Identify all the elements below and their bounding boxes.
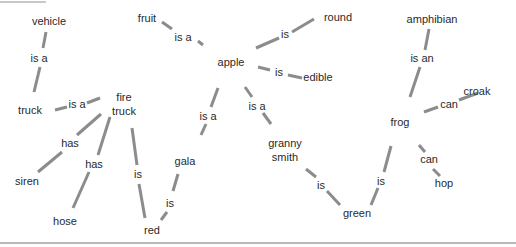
- edge-line: [327, 191, 340, 205]
- node-truck: truck: [18, 104, 42, 116]
- node-label-line: hop: [435, 177, 453, 189]
- edge-label: is a: [68, 98, 86, 110]
- edge-line: [98, 117, 110, 155]
- nodes-layer: vehicletruckfiretrucksirenhoseredfruitap…: [15, 11, 491, 236]
- edge-label: is: [317, 179, 325, 191]
- edge-label: can: [420, 153, 438, 165]
- edge-line: [55, 107, 67, 110]
- edge-line: [38, 152, 62, 172]
- edge-label: is a: [248, 100, 266, 112]
- node-frog: frog: [391, 116, 410, 128]
- edge-line: [256, 38, 279, 48]
- edge-label: is a: [30, 52, 48, 64]
- node-hose: hose: [53, 215, 77, 227]
- node-label-line: granny: [268, 137, 302, 149]
- edge-line: [87, 98, 100, 103]
- node-label-line: fire: [116, 91, 131, 103]
- node-fruit: fruit: [138, 12, 156, 24]
- node-label-line: apple: [218, 56, 245, 68]
- edge-line: [198, 41, 203, 45]
- edge-line: [288, 75, 302, 78]
- node-red: red: [144, 224, 160, 236]
- edge-label: is: [166, 197, 174, 209]
- edge-label: is: [275, 66, 283, 78]
- edge-line: [371, 188, 378, 205]
- node-label-line: smith: [272, 151, 298, 163]
- edge-label: has: [61, 137, 79, 149]
- semantic-network-diagram: is ais ahashasisisis aisisis ais aisisis…: [0, 0, 516, 247]
- node-label-line: edible: [303, 71, 332, 83]
- node-label-line: gala: [175, 155, 197, 167]
- bottom-rule: [0, 242, 516, 244]
- edge-line: [201, 124, 206, 135]
- node-label-line: red: [144, 224, 160, 236]
- node-label-line: round: [324, 11, 352, 23]
- edge-line: [139, 184, 145, 218]
- edge-line: [424, 107, 438, 112]
- node-round: round: [324, 11, 352, 23]
- node-label-line: frog: [391, 116, 410, 128]
- edge-line: [161, 212, 167, 220]
- edge-line: [245, 87, 252, 97]
- edge-label: is: [281, 28, 289, 40]
- node-apple: apple: [218, 56, 245, 68]
- edges-layer: [34, 19, 478, 220]
- edge-line: [162, 22, 172, 29]
- edge-line: [384, 146, 391, 172]
- edge-line: [43, 32, 46, 48]
- edge-line: [77, 114, 101, 135]
- edge-label: is: [377, 175, 385, 187]
- node-green: green: [343, 207, 371, 219]
- edge-label: is: [134, 168, 142, 180]
- edge-label: has: [85, 158, 103, 170]
- edge-line: [292, 19, 314, 32]
- node-label-line: truck: [18, 104, 42, 116]
- edge-line: [433, 169, 440, 176]
- node-label-line: amphibian: [407, 13, 458, 25]
- node-amphibian: amphibian: [407, 13, 458, 25]
- node-label-line: truck: [112, 105, 136, 117]
- edge-label: is a: [174, 31, 192, 43]
- edge-line: [263, 113, 271, 124]
- edge-label: can: [440, 98, 458, 110]
- edge-line: [73, 172, 89, 208]
- edge-line: [34, 67, 40, 92]
- edge-label: is an: [410, 52, 433, 64]
- node-siren: siren: [15, 175, 39, 187]
- node-granny-smith: grannysmith: [268, 137, 302, 163]
- node-vehicle: vehicle: [32, 15, 66, 27]
- edge-line: [410, 67, 420, 97]
- node-label-line: fruit: [138, 12, 156, 24]
- node-edible: edible: [303, 71, 332, 83]
- node-label-line: vehicle: [32, 15, 66, 27]
- node-label-line: green: [343, 207, 371, 219]
- edge-line: [173, 174, 178, 191]
- node-label-line: croak: [464, 85, 491, 97]
- edge-line: [132, 128, 137, 165]
- node-croak: croak: [464, 85, 491, 97]
- edge-label: is a: [199, 110, 217, 122]
- node-fire-truck: firetruck: [112, 91, 136, 117]
- edge-line: [211, 88, 218, 107]
- edge-line: [306, 169, 316, 177]
- edge-line: [258, 67, 270, 70]
- node-gala: gala: [175, 155, 197, 167]
- edge-line: [425, 29, 429, 50]
- node-label-line: siren: [15, 175, 39, 187]
- node-label-line: hose: [53, 215, 77, 227]
- node-hop: hop: [435, 177, 453, 189]
- edge-line: [419, 145, 425, 152]
